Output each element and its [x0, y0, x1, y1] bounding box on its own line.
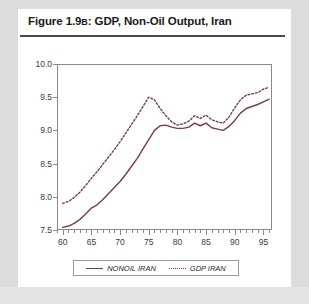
page-background-band-right: [291, 0, 309, 296]
x-axis-tick-minor: [212, 230, 213, 233]
x-axis-tick-minor: [189, 230, 190, 233]
x-axis-label: 95: [251, 238, 275, 247]
x-axis-tick-minor: [160, 230, 161, 233]
x-axis-tick-major: [206, 230, 207, 235]
x-axis-tick-minor: [86, 230, 87, 233]
figure-card: Figure 1.9B: GDP, Non-Oil Output, Iran 7…: [18, 9, 291, 287]
x-axis-tick-major: [235, 230, 236, 235]
x-axis-tick-minor: [218, 230, 219, 233]
x-axis-label: 75: [137, 238, 161, 247]
x-axis-tick-minor: [223, 230, 224, 233]
x-axis-tick-minor: [114, 230, 115, 233]
y-axis-label: 8.0: [20, 193, 52, 202]
x-axis-tick-major: [263, 230, 264, 235]
x-axis-tick-major: [91, 230, 92, 235]
dotted-line-icon: [169, 268, 186, 269]
x-axis-tick-minor: [132, 230, 133, 233]
series-line-nonoil-iran: [63, 99, 269, 227]
figure-title-prefix: Figure 1.9: [28, 15, 81, 27]
x-axis-tick-minor: [229, 230, 230, 233]
x-axis-label: 85: [194, 238, 218, 247]
legend-label-gdp-iran: GDP IRAN: [190, 264, 226, 273]
x-axis-tick-minor: [154, 230, 155, 233]
x-axis-tick-minor: [200, 230, 201, 233]
x-axis-tick-minor: [166, 230, 167, 233]
y-axis-label: 9.5: [20, 93, 52, 102]
x-axis-tick-minor: [74, 230, 75, 233]
plot-area: 7.58.08.59.09.510.0 6065707580859095 NON…: [18, 43, 291, 287]
x-axis-tick-major: [149, 230, 150, 235]
x-axis-tick-minor: [137, 230, 138, 233]
legend-label-nonoil-iran: NONOIL IRAN: [107, 264, 156, 273]
x-axis-tick-minor: [183, 230, 184, 233]
page-background-band-bottom: [0, 287, 309, 304]
x-axis-tick-major: [120, 230, 121, 235]
x-axis-label: 80: [165, 238, 189, 247]
solid-line-icon: [86, 268, 103, 269]
x-axis-tick-major: [63, 230, 64, 235]
figure-title-rest: : GDP, Non-Oil Output, Iran: [88, 15, 232, 27]
x-axis-tick-minor: [57, 230, 58, 233]
x-axis-tick-minor: [97, 230, 98, 233]
x-axis-tick-minor: [252, 230, 253, 233]
legend-item-nonoil-iran: NONOIL IRAN: [86, 264, 156, 273]
title-divider: [20, 35, 285, 37]
x-axis-label: 60: [51, 238, 75, 247]
x-axis-tick-minor: [80, 230, 81, 233]
x-axis-tick-minor: [240, 230, 241, 233]
x-axis-tick-minor: [68, 230, 69, 233]
x-axis-label: 90: [223, 238, 247, 247]
x-axis-tick-minor: [143, 230, 144, 233]
x-axis-tick-minor: [109, 230, 110, 233]
x-axis-tick-minor: [258, 230, 259, 233]
x-axis-label: 70: [108, 238, 132, 247]
x-axis-tick-minor: [172, 230, 173, 233]
figure-title: Figure 1.9B: GDP, Non-Oil Output, Iran: [28, 15, 232, 27]
page-background-band-left: [0, 0, 18, 296]
x-axis-tick-minor: [126, 230, 127, 233]
y-axis-label: 9.0: [20, 126, 52, 135]
x-axis-tick-minor: [269, 230, 270, 233]
x-axis-label: 65: [79, 238, 103, 247]
x-axis-tick-minor: [195, 230, 196, 233]
figure-page: Figure 1.9B: GDP, Non-Oil Output, Iran 7…: [0, 0, 309, 304]
series-line-gdp-iran: [63, 87, 269, 203]
chart-legend: NONOIL IRAN GDP IRAN: [73, 260, 239, 276]
y-axis-label: 10.0: [20, 60, 52, 69]
x-axis-tick-minor: [246, 230, 247, 233]
chart-series-layer: [57, 64, 272, 230]
page-background-band-top: [0, 0, 309, 9]
x-axis-tick-minor: [103, 230, 104, 233]
legend-item-gdp-iran: GDP IRAN: [169, 264, 226, 273]
y-axis-label: 8.5: [20, 160, 52, 169]
y-axis-label: 7.5: [20, 226, 52, 235]
x-axis-tick-major: [177, 230, 178, 235]
